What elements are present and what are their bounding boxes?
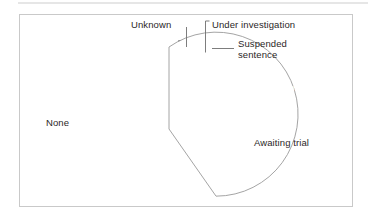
slice-label-awaiting-trial: Awaiting trial — [254, 137, 309, 148]
slice-label-suspended-sentence: Suspended sentence — [238, 38, 308, 60]
pie-chart-figure: Unknown Under investigation Suspended se… — [0, 0, 374, 220]
slice-label-probation: Probation — [253, 82, 295, 93]
slice-label-unknown: Unknown — [131, 19, 171, 30]
pie-chart-graphic — [0, 0, 374, 220]
slice-label-under-investigation: Under investigation — [212, 19, 295, 30]
slice-label-none: None — [46, 117, 69, 128]
